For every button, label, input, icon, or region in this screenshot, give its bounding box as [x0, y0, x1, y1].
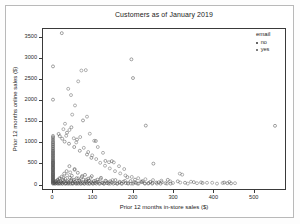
data-point [63, 172, 66, 175]
data-point [63, 140, 66, 143]
data-point [179, 181, 182, 184]
x-tick-mark [173, 190, 174, 193]
y-tick-label: 3500 [18, 34, 37, 40]
data-point [61, 137, 64, 140]
data-point [69, 171, 72, 174]
legend-item-yes[interactable]: yes [256, 47, 292, 54]
y-tick-mark [39, 37, 42, 38]
data-point [76, 171, 79, 174]
y-tick-mark [39, 121, 42, 122]
data-point [70, 174, 73, 177]
data-point [114, 170, 117, 173]
x-tick-label: 100 [80, 195, 104, 201]
data-point [65, 134, 68, 137]
data-point [144, 124, 147, 127]
data-point [62, 128, 65, 131]
x-tick-label: 200 [121, 195, 145, 201]
scatter-points [43, 29, 285, 189]
data-point [64, 122, 67, 125]
legend-item-label: no [261, 40, 267, 46]
data-point [211, 181, 214, 184]
data-point [152, 179, 155, 182]
data-point [88, 132, 91, 135]
data-point [70, 94, 73, 97]
data-point [66, 174, 69, 177]
data-point [96, 146, 99, 149]
legend: email noyes [256, 31, 292, 54]
data-point [73, 146, 76, 149]
data-point [70, 126, 73, 129]
data-point [114, 179, 117, 182]
data-point [152, 162, 155, 165]
x-tick-mark [213, 190, 214, 193]
data-point [132, 77, 135, 80]
data-point [58, 135, 61, 138]
data-point [80, 69, 83, 72]
data-point [52, 65, 55, 68]
data-point [119, 172, 122, 175]
data-point [104, 159, 107, 162]
data-point [68, 165, 71, 168]
x-tick-label: 300 [161, 195, 185, 201]
y-axis-label: Prior 12 months online sales ($) [12, 67, 18, 152]
x-axis-label: Prior 12 months in-store sales ($) [42, 204, 286, 210]
x-tick-mark [254, 190, 255, 193]
y-tick-label: 1500 [18, 118, 37, 124]
data-point [81, 174, 84, 177]
data-point [118, 165, 121, 168]
y-tick-mark [39, 163, 42, 164]
data-point [192, 181, 195, 184]
data-point [68, 142, 71, 145]
y-tick-label: 2500 [18, 76, 37, 82]
data-point [186, 182, 189, 185]
data-point [137, 177, 140, 180]
data-point [78, 149, 81, 152]
series-no [52, 32, 277, 185]
y-tick-label: 1000 [18, 139, 37, 145]
data-point [144, 178, 147, 181]
data-point [84, 173, 87, 176]
data-point [124, 174, 127, 177]
data-point [82, 119, 85, 122]
x-tick-label: 400 [201, 195, 225, 201]
data-point [274, 124, 277, 127]
x-tick-mark [92, 190, 93, 193]
y-tick-mark [39, 185, 42, 186]
data-point [60, 32, 63, 35]
y-tick-label: 2000 [18, 97, 37, 103]
data-point [67, 87, 70, 90]
data-point [216, 182, 219, 185]
data-point [206, 181, 209, 184]
x-tick-label: 500 [242, 195, 266, 201]
y-tick-mark [39, 79, 42, 80]
series-yes [52, 69, 237, 185]
legend-item-label: yes [261, 47, 270, 53]
y-tick-mark [39, 58, 42, 59]
data-point [108, 167, 111, 170]
y-tick-mark [39, 100, 42, 101]
data-point [74, 104, 77, 107]
plot-area [42, 28, 286, 190]
data-point [95, 158, 98, 161]
data-point [86, 115, 89, 118]
data-point [181, 173, 184, 176]
data-point [102, 151, 105, 154]
legend-title: email [256, 31, 292, 37]
chart-screenshot: Customers as of January 2019 Prior 12 mo… [0, 0, 300, 224]
legend-entries: noyes [256, 40, 292, 54]
x-tick-label: 0 [40, 195, 64, 201]
data-point [65, 170, 68, 173]
data-point [76, 138, 79, 141]
data-point [130, 175, 133, 178]
chart-title: Customers as of January 2019 [42, 11, 286, 18]
data-point [130, 58, 133, 61]
data-point [72, 137, 75, 140]
y-tick-label: 500 [18, 160, 37, 166]
y-tick-label: 3000 [18, 55, 37, 61]
data-point [184, 181, 187, 184]
x-tick-mark [133, 190, 134, 193]
data-point [52, 98, 55, 101]
y-tick-mark [39, 142, 42, 143]
data-point [84, 69, 87, 72]
data-point [87, 151, 90, 154]
